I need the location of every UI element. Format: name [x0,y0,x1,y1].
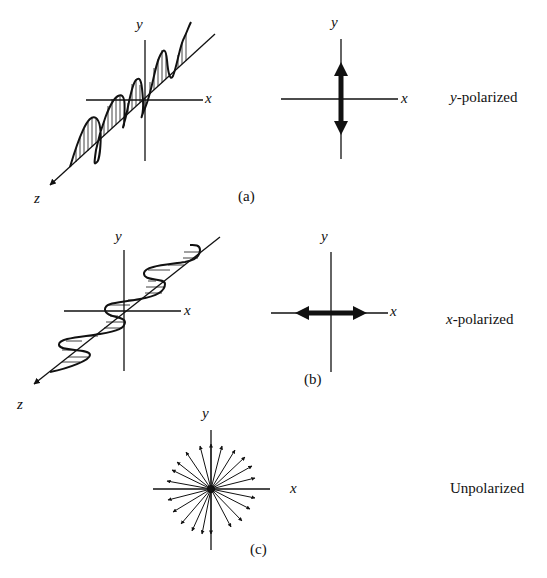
panel-a-wave [50,22,215,185]
panel-a-vector-x-label: x [401,90,408,107]
panel-b-description: x-polarized [446,311,513,328]
panel-c-description: Unpolarized [450,480,524,497]
arrow-down-icon [334,121,348,135]
panel-a-vector-y-label: y [331,14,338,31]
panel-a-description: y-polarized [450,89,517,106]
panel-a-caption: (a) [238,188,255,205]
hatch-lines [76,34,186,162]
panel-b-vector [271,252,388,372]
panel-c-vector [153,430,270,550]
panel-b-wave-x-label: x [184,302,191,319]
arrow-up-icon [334,62,348,76]
panel-a-vector [281,39,398,159]
panel-c-y-label: y [202,405,209,422]
panel-b-wave [34,237,220,384]
panel-c-x-label: x [290,480,297,497]
arrow-right-icon [353,306,367,320]
panel-b-caption: (b) [304,371,322,388]
origin-dot [207,485,215,493]
panel-b-vector-x-label: x [390,303,397,320]
panel-a-wave-z-label: z [34,190,40,207]
panel-a-wave-y-label: y [136,16,143,33]
panel-c-caption: (c) [250,541,267,558]
arrow-left-icon [295,306,309,320]
panel-a-wave-x-label: x [205,90,212,107]
panel-b-wave-y-label: y [115,228,122,245]
panel-b-vector-y-label: y [321,228,328,245]
panel-b-wave-z-label: z [17,396,23,413]
z-axis-line [50,34,215,185]
